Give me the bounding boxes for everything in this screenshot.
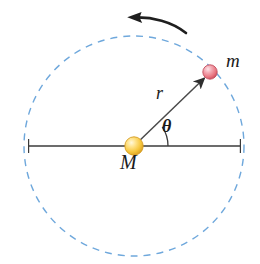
- angle-label: θ: [162, 117, 171, 135]
- orbit-diagram: M m r θ: [0, 0, 260, 264]
- orbiting-mass-label: m: [226, 51, 240, 70]
- radius-label: r: [156, 84, 163, 102]
- central-mass-label: M: [120, 152, 137, 172]
- orbit-diagram-canvas: [0, 0, 260, 264]
- rotation-arrow: [127, 12, 186, 33]
- orbiting-mass-m: [203, 65, 217, 79]
